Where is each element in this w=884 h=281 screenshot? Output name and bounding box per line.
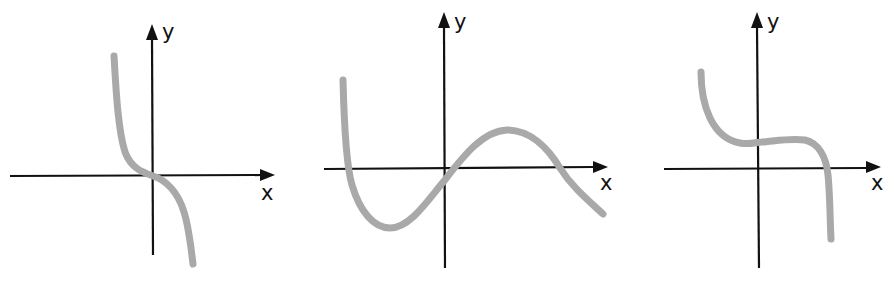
- graph-3-y-label: y: [767, 12, 779, 33]
- graph-1-x-axis-arrow-icon: [260, 169, 275, 181]
- graph-1-x-label: x: [261, 183, 273, 204]
- graph-3-curve: [701, 72, 831, 239]
- graph-1-y-axis: [152, 38, 153, 255]
- graph-3: [664, 12, 881, 268]
- graph-2: [324, 12, 608, 268]
- graph-2-y-axis: [444, 27, 445, 268]
- graph-1: [10, 24, 275, 264]
- graph-2-x-label: x: [600, 173, 612, 194]
- graph-1-y-label: y: [162, 22, 174, 43]
- graph-2-curve: [343, 80, 603, 228]
- graph-3-y-axis: [757, 27, 759, 268]
- graph-3-x-axis: [664, 168, 866, 169]
- graph-2-y-axis-arrow-icon: [438, 12, 450, 28]
- graph-2-y-label: y: [454, 12, 466, 33]
- graph-3-x-label: x: [871, 173, 883, 194]
- graph-1-y-axis-arrow-icon: [146, 24, 158, 40]
- cubic-graphs-figure: [0, 0, 884, 281]
- graph-3-y-axis-arrow-icon: [751, 12, 763, 28]
- graph-1-x-axis: [10, 175, 262, 176]
